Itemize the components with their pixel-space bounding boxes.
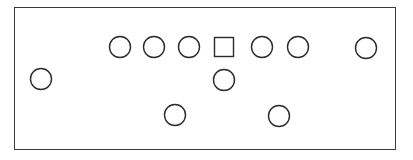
player-left-circle-icon <box>31 69 52 90</box>
player-right-circle-icon <box>356 38 377 59</box>
line-1-circle-icon <box>110 37 131 58</box>
formation-canvas <box>0 0 413 160</box>
back-left-circle-icon <box>165 105 186 126</box>
back-right-circle-icon <box>269 106 290 127</box>
line-2-circle-icon <box>144 37 165 58</box>
line-6-circle-icon <box>288 37 309 58</box>
line-5-circle-icon <box>252 37 273 58</box>
line-3-circle-icon <box>179 37 200 58</box>
quarterback-circle-icon <box>214 70 235 91</box>
center-square-icon <box>215 38 234 57</box>
